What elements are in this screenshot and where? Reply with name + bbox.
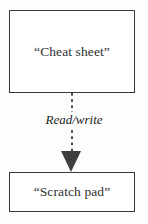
arrowhead-icon: [61, 151, 81, 172]
edge-label-text: Read/write: [42, 112, 105, 127]
node-scratch-pad[interactable]: “Scratch pad”: [9, 172, 135, 212]
edge-label-read-write: Read/write: [0, 112, 148, 127]
node-cheat-sheet[interactable]: “Cheat sheet”: [9, 10, 135, 93]
diagram-canvas: “Cheat sheet” Read/write “Scratch pad”: [0, 0, 148, 224]
node-cheat-sheet-label: “Cheat sheet”: [34, 45, 110, 59]
node-scratch-pad-label: “Scratch pad”: [34, 185, 111, 199]
